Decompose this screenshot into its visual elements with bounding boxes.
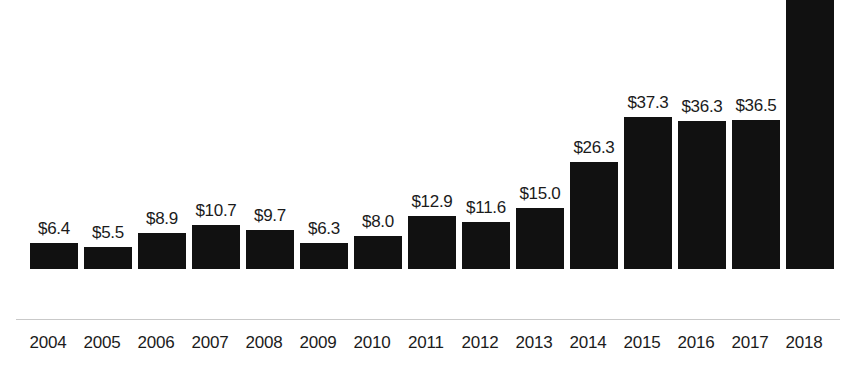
bar-value-label: $36.5 [720, 96, 792, 116]
plot-area: $6.4 $5.5 $8.9 $10.7 $9.7 $6.3 $8.0 $12 [0, 0, 855, 320]
bar-value-label: $15.0 [504, 184, 576, 204]
x-tick-2018: 2018 [774, 333, 834, 353]
x-tick-2006: 2006 [126, 333, 186, 353]
x-tick-2007: 2007 [180, 333, 240, 353]
bar-2016 [678, 121, 726, 269]
bar-value-label: $26.3 [558, 138, 630, 158]
bar-2005 [84, 247, 132, 269]
bar-2015 [624, 117, 672, 269]
bar-2004 [30, 243, 78, 269]
bar-2018 [786, 0, 834, 269]
bar-2010 [354, 236, 402, 269]
bar-2014 [570, 162, 618, 269]
x-tick-2015: 2015 [612, 333, 672, 353]
x-tick-2011: 2011 [396, 333, 456, 353]
bar-2011 [408, 216, 456, 269]
x-tick-2012: 2012 [450, 333, 510, 353]
x-axis-line [16, 319, 840, 320]
x-tick-2014: 2014 [558, 333, 618, 353]
bar-2012 [462, 222, 510, 269]
x-tick-2005: 2005 [72, 333, 132, 353]
x-tick-2008: 2008 [234, 333, 294, 353]
x-tick-2013: 2013 [504, 333, 564, 353]
x-tick-2004: 2004 [18, 333, 78, 353]
x-tick-2016: 2016 [666, 333, 726, 353]
bar-chart: $6.4 $5.5 $8.9 $10.7 $9.7 $6.3 $8.0 $12 [0, 0, 855, 370]
bar-2006 [138, 233, 186, 269]
x-tick-2017: 2017 [720, 333, 780, 353]
x-tick-2009: 2009 [288, 333, 348, 353]
x-tick-2010: 2010 [342, 333, 402, 353]
bar-2007 [192, 225, 240, 269]
bar-2008 [246, 230, 294, 269]
bar-value-label: $8.0 [342, 212, 414, 232]
bar-2013 [516, 208, 564, 269]
bar-2017 [732, 120, 780, 269]
bar-2009 [300, 243, 348, 269]
